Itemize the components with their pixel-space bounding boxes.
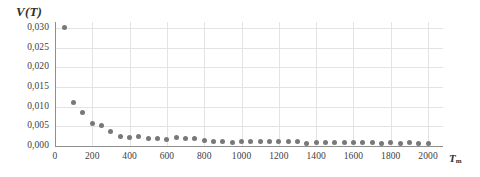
y-axis-tick-label: 0,005 (11, 120, 49, 130)
gridline-vertical (92, 22, 93, 146)
data-point (267, 139, 272, 144)
y-axis-tick-label: 0,015 (11, 81, 49, 91)
data-point (304, 141, 309, 146)
y-axis-tick-label: 0,030 (11, 22, 49, 32)
data-point (62, 25, 67, 30)
plot-area: 0,0000,0050,0100,0150,0200,0250,03002004… (0, 0, 480, 177)
x-axis-tick-label: 2000 (408, 151, 448, 161)
data-point (164, 137, 169, 142)
gridline-vertical (279, 22, 280, 146)
data-point (220, 139, 225, 144)
x-axis-tick-label: 1800 (371, 151, 411, 161)
data-point (155, 136, 160, 141)
data-point (314, 140, 319, 145)
gridline-vertical (353, 22, 354, 146)
x-axis-tick-label: 1400 (296, 151, 336, 161)
data-point (230, 140, 235, 145)
data-point (211, 139, 216, 144)
gridline-vertical (130, 22, 131, 146)
data-point (108, 129, 113, 134)
data-point (118, 134, 123, 139)
data-point (239, 139, 244, 144)
y-axis-tick-label: 0,020 (11, 61, 49, 71)
x-axis-tick-label: 0 (35, 151, 75, 161)
data-point (174, 135, 179, 140)
gridline-horizontal (55, 126, 443, 127)
data-point (342, 140, 347, 145)
gridline-vertical (316, 22, 317, 146)
data-point (360, 140, 365, 145)
gridline-vertical (391, 22, 392, 146)
x-axis-line (55, 146, 443, 147)
y-axis-line (55, 22, 56, 146)
data-point (407, 140, 412, 145)
gridline-vertical (167, 22, 168, 146)
data-point (202, 138, 207, 143)
x-axis-tick-label: 800 (184, 151, 224, 161)
data-point (71, 100, 76, 105)
data-point (183, 136, 188, 141)
data-point (276, 139, 281, 144)
x-axis-tick-label: 1200 (259, 151, 299, 161)
data-point (127, 135, 132, 140)
x-axis-tick-label: 400 (110, 151, 150, 161)
gridline-vertical (428, 22, 429, 146)
data-point (80, 110, 85, 115)
data-point (426, 141, 431, 146)
data-point (388, 140, 393, 145)
gridline-vertical (204, 22, 205, 146)
gridline-horizontal (55, 28, 443, 29)
data-point (99, 123, 104, 128)
data-point (398, 141, 403, 146)
gridline-horizontal (55, 48, 443, 49)
gridline-horizontal (55, 67, 443, 68)
data-point (295, 139, 300, 144)
data-point (351, 140, 356, 145)
data-point (416, 141, 421, 146)
scatter-chart: V(T) Tm 0,0000,0050,0100,0150,0200,0250,… (0, 0, 480, 177)
data-point (258, 139, 263, 144)
data-point (136, 134, 141, 139)
data-point (379, 141, 384, 146)
x-axis-tick-label: 1600 (333, 151, 373, 161)
x-axis-tick-label: 1000 (222, 151, 262, 161)
gridline-vertical (242, 22, 243, 146)
data-point (146, 136, 151, 141)
x-axis-tick-label: 200 (72, 151, 112, 161)
data-point (370, 140, 375, 145)
y-axis-tick-label: 0,000 (11, 140, 49, 150)
y-axis-tick-label: 0,025 (11, 42, 49, 52)
data-point (323, 140, 328, 145)
gridline-horizontal (55, 87, 443, 88)
data-point (248, 139, 253, 144)
data-point (332, 140, 337, 145)
gridline-horizontal (55, 107, 443, 108)
y-axis-tick-label: 0,010 (11, 101, 49, 111)
x-axis-tick-label: 600 (147, 151, 187, 161)
data-point (286, 139, 291, 144)
data-point (192, 136, 197, 141)
